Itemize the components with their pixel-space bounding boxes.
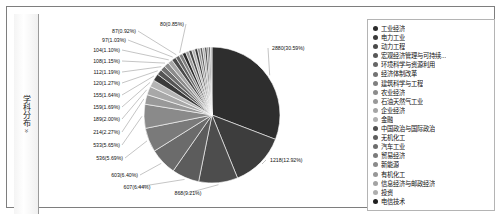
legend-item[interactable]: 电力工业 (373, 33, 491, 42)
pie-slice-label: 533(5.65%) (93, 142, 120, 148)
legend-item[interactable]: 环境科学与资源利用 (373, 60, 491, 69)
legend-item[interactable]: 投资 (373, 188, 491, 197)
legend-color-swatch-icon (373, 153, 378, 158)
pie-slice-label: 97(1.03%) (102, 37, 126, 43)
legend-item-label: 投资 (381, 188, 393, 197)
legend-item-label: 石油天然气工业 (381, 97, 423, 106)
legend-box: 工业经济电力工业动力工程宏观经济管理与可持续...环境科学与资源利用经济体制改革… (367, 19, 495, 211)
legend-item-label: 金融 (381, 115, 393, 124)
legend-item-label: 农业经济 (381, 88, 405, 97)
legend-item[interactable]: 金融 (373, 115, 491, 124)
pie-label-leader-line (122, 61, 165, 63)
legend-item[interactable]: 农业经济 (373, 88, 491, 97)
legend-item-label: 电力工业 (381, 33, 405, 42)
legend-item[interactable]: 电信技术 (373, 197, 491, 206)
pie-label-leader-line (125, 141, 147, 158)
pie-label-leader-line (122, 90, 147, 119)
legend-item[interactable]: 宏观经济管理与可持续... (373, 51, 491, 60)
legend-color-swatch-icon (373, 190, 378, 195)
legend-item[interactable]: 汽车工业 (373, 142, 491, 151)
legend-color-swatch-icon (373, 44, 378, 49)
pie-slice-label: 536(5.69%) (96, 155, 123, 161)
legend-color-swatch-icon (373, 62, 378, 67)
legend-color-swatch-icon (373, 90, 378, 95)
legend-item-label: 建筑科学与工程 (381, 79, 423, 88)
pie-label-leader-line (140, 163, 161, 175)
pie-chart-area: 2880(30.59%)1218(12.92%)868(9.21%)607(6.… (40, 15, 360, 213)
pie-chart-svg: 2880(30.59%)1218(12.92%)868(9.21%)607(6.… (40, 15, 360, 213)
pie-slice-label: 868(9.21%) (175, 190, 202, 196)
legend-item[interactable]: 中国政治与国际政治 (373, 124, 491, 133)
legend-color-swatch-icon (373, 199, 378, 204)
pie-slice-label: 214(2.27%) (93, 129, 120, 135)
legend-color-swatch-icon (373, 126, 378, 131)
legend-item-label: 贸易经济 (381, 151, 405, 160)
pie-label-leader-line (122, 50, 169, 60)
legend-item[interactable]: 新能源 (373, 160, 491, 169)
legend-color-swatch-icon (373, 35, 378, 40)
legend-item[interactable]: 石油天然气工业 (373, 97, 491, 106)
pie-label-leader-line (268, 48, 270, 75)
disciplines-distribution-panel: 学科分布 » 2880(30.59%)1218(12.92%)868(9.21%… (0, 0, 501, 218)
legend-item-label: 汽车工业 (381, 142, 405, 151)
legend-item[interactable]: 动力工程 (373, 42, 491, 51)
chevron-right-icon: » (23, 129, 30, 133)
pie-slice-label: 120(1.27%) (93, 80, 120, 86)
pie-label-leader-line (180, 24, 186, 53)
pie-slice-label: 2880(30.59%) (272, 45, 305, 51)
legend-item-label: 中国政治与国际政治 (381, 124, 435, 133)
legend-item-label: 工业经济 (381, 24, 405, 33)
pie-label-leader-line (122, 116, 142, 145)
legend-item[interactable]: 企业经济 (373, 106, 491, 115)
legend-color-swatch-icon (373, 162, 378, 167)
legend-item-label: 企业经济 (381, 106, 405, 115)
legend-item[interactable]: 建筑科学与工程 (373, 79, 491, 88)
legend-color-swatch-icon (373, 144, 378, 149)
legend-color-swatch-icon (373, 99, 378, 104)
legend-item[interactable]: 有机化工 (373, 170, 491, 179)
legend-item-label: 经济体制改革 (381, 69, 417, 78)
legend-item-label: 动力工程 (381, 42, 405, 51)
legend-color-swatch-icon (373, 81, 378, 86)
legend-color-swatch-icon (373, 53, 378, 58)
legend-color-swatch-icon (373, 72, 378, 77)
legend-item-label: 信息经济与邮政经济 (381, 179, 435, 188)
legend-item-label: 宏观经济管理与可持续... (381, 51, 446, 60)
legend-color-swatch-icon (373, 135, 378, 140)
pie-slice-label: 108(1.15%) (93, 58, 120, 64)
legend-item-label: 无机化工 (381, 133, 405, 142)
legend-color-swatch-icon (373, 117, 378, 122)
pie-slice-label: 607(6.44%) (124, 184, 151, 190)
legend-page-indicator: 1/2 (383, 209, 392, 211)
legend-item[interactable]: 无机化工 (373, 133, 491, 142)
pie-slice-label: 189(2.00%) (93, 116, 120, 122)
legend-item-label: 新能源 (381, 160, 399, 169)
legend-color-swatch-icon (373, 108, 378, 113)
legend-item[interactable]: 经济体制改革 (373, 69, 491, 78)
pie-label-leader-line (122, 67, 161, 72)
legend-item[interactable]: 信息经济与邮政经济 (373, 179, 491, 188)
legend-color-swatch-icon (373, 181, 378, 186)
legend-list: 工业经济电力工业动力工程宏观经济管理与可持续...环境科学与资源利用经济体制改革… (373, 24, 491, 206)
pie-slice-label: 112(1.19%) (94, 69, 121, 75)
legend-item[interactable]: 工业经济 (373, 24, 491, 33)
legend-item-label: 环境科学与资源利用 (381, 60, 435, 69)
pie-slice-group (144, 47, 280, 183)
legend-pager: 1/2 (373, 208, 491, 211)
pie-slice-label: 104(1.10%) (93, 47, 120, 53)
legend-item-label: 电信技术 (381, 197, 405, 206)
legend-color-swatch-icon (373, 172, 378, 177)
legend-item[interactable]: 贸易经济 (373, 151, 491, 160)
pie-slice-label: 155(1.64%) (93, 92, 120, 98)
legend-item-label: 有机化工 (381, 170, 405, 179)
sidebar-tab-disciplines[interactable]: 学科分布 » (14, 14, 39, 214)
pie-slice-label: 87(0.92%) (112, 28, 136, 34)
pie-slice-label: 1218(12.92%) (270, 157, 303, 163)
triangle-down-icon[interactable] (395, 210, 401, 211)
panel-frame: 学科分布 » 2880(30.59%)1218(12.92%)868(9.21%… (6, 6, 495, 208)
pie-chart[interactable]: 2880(30.59%)1218(12.92%)868(9.21%)607(6.… (40, 15, 360, 213)
sidebar-tab-label: 学科分布 (22, 95, 31, 127)
pie-slice-label: 603(6.40%) (111, 172, 138, 178)
pie-slice-label: 159(1.69%) (93, 104, 120, 110)
pie-slice-label: 80(0.85%) (160, 21, 184, 27)
